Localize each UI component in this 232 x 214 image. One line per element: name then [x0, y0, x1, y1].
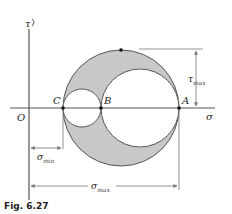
point-a-label: A: [181, 95, 189, 106]
point-b: [99, 106, 103, 110]
point-c-label: C: [53, 95, 61, 106]
sigma-min-label: σmin: [37, 152, 55, 164]
point-b-label: B: [103, 95, 111, 106]
tau-rotation-arrow-icon: [32, 19, 34, 26]
figure-caption: Fig. 6.27: [4, 201, 48, 211]
point-c: [61, 106, 65, 110]
origin-label: O: [17, 112, 25, 123]
mohr-circle-diagram: τ σ O C B A τmax σmin σmax Fig. 6.27: [0, 0, 232, 214]
tau-axis-label: τ: [25, 18, 31, 29]
sigma-axis-label: σ: [206, 111, 214, 122]
point-a: [177, 106, 181, 110]
tau-max-label: τmax: [188, 74, 206, 86]
point-top: [119, 48, 123, 52]
sigma-max-label: σmax: [91, 181, 110, 193]
